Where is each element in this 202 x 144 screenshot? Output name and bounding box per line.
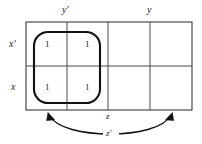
cell-r0-c1: 1 <box>85 40 90 49</box>
cell-r0-c0: 1 <box>45 40 50 49</box>
bottom-label-z-prime: z′ <box>106 129 111 138</box>
column-label-y: y <box>147 5 151 15</box>
cell-r1-c1: 1 <box>85 83 90 92</box>
z-prime-span-arrow-head-left <box>47 113 55 121</box>
kmap-figure: y′ y x′ x 1 1 1 1 z z′ <box>0 0 202 144</box>
bottom-label-z: z <box>106 112 110 121</box>
column-label-y-prime: y′ <box>62 5 69 15</box>
row-label-x-prime: x′ <box>9 39 16 49</box>
row-label-x: x <box>11 82 15 92</box>
cell-r1-c0: 1 <box>45 83 50 92</box>
kmap-canvas <box>0 0 202 144</box>
z-prime-span-arrow-head-right <box>166 113 174 121</box>
